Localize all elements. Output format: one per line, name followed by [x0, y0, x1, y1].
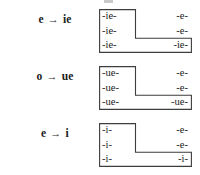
boot-cell-left: -i- [102, 154, 112, 165]
boot-row: -ie- -ie- [99, 38, 192, 53]
boot-cell-left: -ie- [102, 40, 117, 51]
boot-table-o-ue: -ue- -e- -ue- -e- -ue- -ue- [99, 66, 192, 110]
boot-cells: -i- -e- -i- -e- -i- -i- [99, 123, 192, 167]
boot-row: -ue- -e- [99, 81, 192, 96]
boot-cell-right: -i- [178, 154, 188, 165]
boot-cell-right: -e- [176, 68, 188, 79]
rule-source-vowel: o [36, 70, 42, 82]
rule-block-e-ie: e→ie -ie- -e- -ie- -e- -ie- -ie- [0, 0, 200, 58]
rule-label-e-ie: e→ie [14, 10, 96, 28]
boot-row: -i- -e- [99, 138, 192, 153]
rule-label-o-ue: o→ue [14, 67, 96, 85]
boot-cell-right: -e- [176, 11, 188, 22]
boot-cell-left: -ue- [102, 83, 119, 94]
rule-source-vowel: e [41, 127, 46, 139]
boot-cell-right: -e- [176, 83, 188, 94]
boot-cells: -ie- -e- -ie- -e- -ie- -ie- [99, 9, 192, 53]
rule-block-e-i: e→i -i- -e- -i- -e- -i- -i- [0, 114, 200, 172]
boot-row: -ie- -e- [99, 9, 192, 24]
rule-target-vowel: i [66, 127, 69, 139]
boot-cell-right: -e- [176, 140, 188, 151]
boot-row: -ue- -e- [99, 66, 192, 81]
boot-table-e-i: -i- -e- -i- -e- -i- -i- [99, 123, 192, 167]
stem-change-boot-diagram: e→ie -ie- -e- -ie- -e- -ie- -ie- [0, 0, 200, 175]
arrow-icon: → [48, 13, 59, 25]
arrow-icon: → [50, 127, 61, 139]
boot-cell-left: -i- [102, 125, 112, 136]
boot-table-e-ie: -ie- -e- -ie- -e- -ie- -ie- [99, 9, 192, 53]
rule-label-e-i: e→i [14, 124, 96, 142]
boot-cell-left: -ue- [102, 97, 119, 108]
boot-cell-right: -e- [176, 26, 188, 37]
rule-block-o-ue: o→ue -ue- -e- -ue- -e- -ue- -ue- [0, 57, 200, 115]
rule-target-vowel: ie [63, 13, 72, 25]
boot-row: -ie- -e- [99, 24, 192, 39]
boot-cell-right: -ue- [171, 97, 188, 108]
boot-row: -i- -i- [99, 152, 192, 167]
boot-row: -i- -e- [99, 123, 192, 138]
boot-cell-left: -ue- [102, 68, 119, 79]
boot-cell-left: -ie- [102, 11, 117, 22]
boot-row: -ue- -ue- [99, 95, 192, 110]
boot-cell-right: -ie- [173, 40, 188, 51]
boot-cell-left: -ie- [102, 26, 117, 37]
boot-cell-left: -i- [102, 140, 112, 151]
rule-source-vowel: e [38, 13, 43, 25]
arrow-icon: → [46, 70, 57, 82]
boot-cell-right: -e- [176, 125, 188, 136]
rule-target-vowel: ue [62, 70, 74, 82]
boot-cells: -ue- -e- -ue- -e- -ue- -ue- [99, 66, 192, 110]
